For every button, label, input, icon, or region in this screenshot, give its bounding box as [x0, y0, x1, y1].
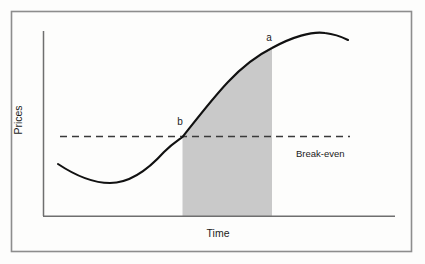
- x-axis-title: Time: [207, 228, 230, 239]
- chart-canvas: [0, 0, 425, 264]
- point-b-label: b: [177, 117, 183, 127]
- break-even-label: Break-even: [296, 149, 345, 159]
- shaded-profit-region: [183, 48, 273, 216]
- figure-container: Prices Time Break-even a b: [0, 0, 425, 264]
- y-axis-title: Prices: [13, 105, 24, 134]
- point-a-label: a: [266, 33, 272, 43]
